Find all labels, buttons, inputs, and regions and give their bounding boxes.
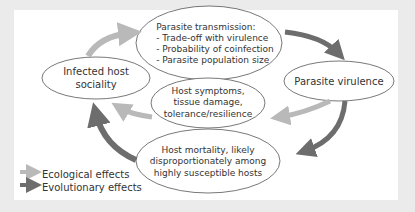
node-line: - Probability of coinfection (156, 44, 274, 55)
arrow-virulence-to-symptoms (280, 101, 330, 117)
node-parasite-transmission: Parasite transmission: - Trade-off with … (160, 21, 270, 67)
node-line: Host symptoms, (164, 86, 252, 98)
legend: Ecological effects Evolutionary effects (20, 168, 142, 194)
legend-item-evolutionary: Evolutionary effects (20, 181, 142, 194)
node-line: - Parasite population size (156, 55, 274, 66)
node-host-symptoms: Host symptoms, tissue damage, tolerance/… (160, 85, 256, 121)
legend-label: Evolutionary effects (42, 182, 142, 193)
node-line: tissue damage, (164, 97, 252, 109)
node-parasite-virulence: Parasite virulence (288, 73, 390, 89)
node-line: disproportionately among (150, 156, 266, 168)
node-line: Parasite virulence (294, 76, 383, 87)
node-host-mortality: Host mortality, likely disproportionatel… (148, 144, 268, 180)
node-line: Host mortality, likely (150, 145, 266, 157)
node-line: highly susceptible hosts (150, 168, 266, 180)
arrow-symptoms-to-sociality (120, 108, 152, 117)
node-line: Infected host (63, 65, 129, 78)
node-line: Parasite transmission: (156, 22, 274, 33)
node-infected-host-sociality: Infected host sociality (50, 64, 142, 92)
legend-item-ecological: Ecological effects (20, 168, 142, 181)
node-line: - Trade-off with virulence (156, 33, 274, 44)
arrow-sociality-to-transmission (88, 33, 130, 56)
node-line: sociality (63, 78, 129, 91)
arrow-mortality-to-sociality (96, 114, 136, 160)
arrow-transmission-to-virulence (285, 32, 338, 53)
node-line: tolerance/resilience (164, 109, 252, 121)
legend-label: Ecological effects (42, 169, 129, 180)
